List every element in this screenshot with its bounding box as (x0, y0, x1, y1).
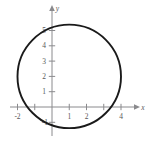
graph-figure: -2 1 2 4 5 4 3 2 1 -1 x y (0, 0, 148, 143)
x-tick-label--2: -2 (14, 112, 20, 121)
x-tick-label-2: 2 (85, 112, 89, 121)
y-tick-label-2: 2 (42, 72, 46, 81)
x-tick-label-4: 4 (119, 112, 123, 121)
y-axis-label: y (55, 4, 60, 13)
y-tick-label-3: 3 (42, 57, 46, 66)
y-tick-label-1: 1 (42, 87, 46, 96)
x-tick-label-1: 1 (67, 112, 71, 121)
x-axis-arrow (134, 104, 140, 110)
x-axis-label: x (140, 103, 145, 112)
y-tick-label-4: 4 (42, 41, 46, 50)
coordinate-plane: -2 1 2 4 5 4 3 2 1 -1 x y (0, 0, 148, 143)
y-axis-arrow (49, 5, 55, 11)
